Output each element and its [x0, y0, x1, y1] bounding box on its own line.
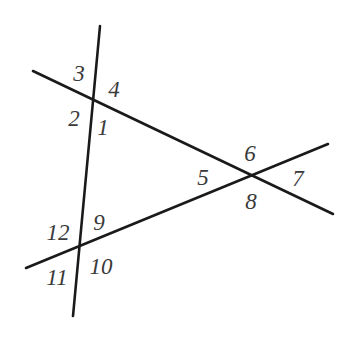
angle-label-11: 11 [46, 266, 67, 289]
angle-label-12: 12 [47, 221, 70, 244]
geometry-figure: 1 2 3 4 5 6 7 8 9 10 11 12 [0, 0, 349, 343]
lower-ascending-line [26, 144, 328, 268]
angle-label-1: 1 [97, 116, 109, 139]
angle-label-7: 7 [292, 167, 304, 190]
angle-label-6: 6 [244, 142, 256, 165]
angle-label-2: 2 [68, 107, 80, 130]
angle-label-3: 3 [73, 62, 85, 85]
angle-label-4: 4 [108, 78, 120, 101]
angle-label-8: 8 [245, 190, 257, 213]
angle-label-9: 9 [93, 211, 105, 234]
upper-descending-line [33, 71, 333, 214]
angle-label-10: 10 [90, 255, 113, 278]
angle-label-5: 5 [197, 166, 209, 189]
